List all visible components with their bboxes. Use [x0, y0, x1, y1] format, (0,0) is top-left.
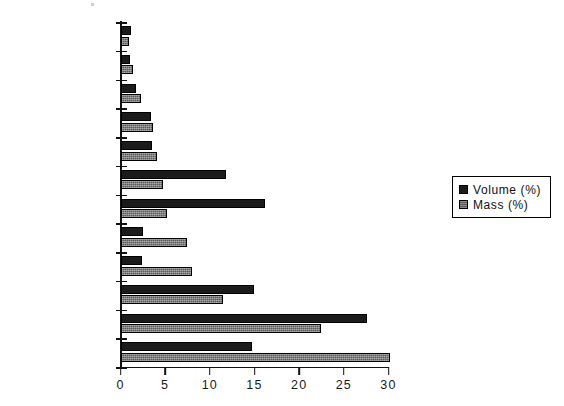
bar-mass	[121, 295, 224, 304]
x-axis-tick	[298, 367, 300, 375]
x-axis-tick-label: 15	[246, 378, 262, 392]
y-axis-tick	[116, 166, 127, 168]
bar-mass	[121, 65, 134, 74]
bar-mass	[121, 180, 164, 189]
scan-speck	[91, 3, 94, 6]
bar-volume	[121, 199, 266, 208]
chart-legend: Volume (%) Mass (%)	[452, 176, 551, 218]
bar-volume	[121, 256, 142, 265]
y-axis-tick	[116, 281, 127, 283]
category-row: wood, leather, rubber	[121, 80, 389, 109]
bar-volume	[121, 84, 136, 93]
y-axis-tick	[116, 223, 127, 225]
category-row: glass	[121, 252, 389, 281]
y-axis-tick	[116, 367, 127, 369]
x-axis-tick-label: 25	[336, 378, 352, 392]
bar-mass	[121, 209, 167, 218]
y-axis-tick	[116, 310, 127, 312]
black-square-icon	[459, 185, 468, 194]
legend-label-volume: Volume (%)	[473, 183, 541, 197]
legend-item-volume: Volume (%)	[459, 182, 541, 197]
category-row: hazardous waste	[121, 51, 389, 80]
x-axis-tick-label: 10	[202, 378, 218, 392]
bar-volume	[121, 112, 151, 121]
category-row: mineral waste	[121, 223, 389, 252]
x-axis-tick	[254, 367, 256, 375]
bar-volume	[121, 285, 254, 294]
y-axis-tick	[116, 108, 127, 110]
plot-area: 051015202530non-ferro metalshazardous wa…	[121, 22, 389, 367]
y-axis-tick	[116, 195, 127, 197]
x-axis-tick	[164, 367, 166, 375]
y-axis-tick	[116, 80, 127, 82]
category-row: ferro metals	[121, 137, 389, 166]
y-axis-tick	[116, 338, 127, 340]
gray-square-icon	[459, 200, 468, 209]
x-axis-tick	[388, 367, 390, 375]
bar-volume	[121, 55, 131, 64]
x-axis-tick	[343, 367, 345, 375]
bar-volume	[121, 227, 143, 236]
bar-mass	[121, 94, 142, 103]
category-row: plastic foils	[121, 195, 389, 224]
bar-volume	[121, 26, 132, 35]
bar-mass	[121, 238, 187, 247]
bar-mass	[121, 152, 158, 161]
category-row: plastic cases	[121, 166, 389, 195]
bar-volume	[121, 342, 252, 351]
category-row: paper, cardboard	[121, 310, 389, 339]
bar-chart: 051015202530non-ferro metalshazardous wa…	[0, 0, 564, 406]
y-axis-tick	[116, 22, 127, 24]
y-axis-tick	[116, 252, 127, 254]
y-axis-tick	[116, 137, 127, 139]
bar-mass	[121, 123, 153, 132]
legend-label-mass: Mass (%)	[473, 198, 528, 212]
bar-volume	[121, 170, 226, 179]
bar-mass	[121, 324, 321, 333]
x-axis-tick-label: 20	[291, 378, 307, 392]
category-row: non-ferro metals	[121, 22, 389, 51]
x-axis-tick	[209, 367, 211, 375]
x-axis-tick-label: 5	[161, 378, 169, 392]
bar-volume	[121, 314, 368, 323]
legend-item-mass: Mass (%)	[459, 197, 541, 212]
bar-mass	[121, 267, 192, 276]
x-axis-tick-label: 0	[116, 378, 124, 392]
x-axis-tick-label: 30	[380, 378, 396, 392]
bar-mass	[121, 37, 129, 46]
category-row: plastic compounds	[121, 281, 389, 310]
bar-mass	[121, 353, 391, 362]
category-row: biowaste	[121, 338, 389, 367]
y-axis-tick	[116, 51, 127, 53]
bar-volume	[121, 141, 152, 150]
category-row: textiles	[121, 108, 389, 137]
